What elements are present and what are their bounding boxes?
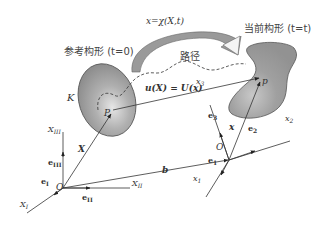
basis-e3-label: e3 [208, 110, 217, 121]
displacement-label: u(X) = U(x) [145, 83, 203, 93]
vector-b-label: b [162, 165, 168, 175]
diagram-canvas: x=χ(X,t) 当前构形 (t=t) 参考构形 (t=0) 路径 u(X) =… [0, 0, 326, 229]
vector-x-label: x [228, 122, 235, 132]
vector-X [63, 114, 111, 188]
vector-b [63, 160, 228, 188]
basis-e2-label: e2 [248, 123, 257, 134]
basis-eIII-label: eIII [48, 157, 62, 168]
axis-XI-label: XI [19, 200, 29, 210]
axis-x3-label: x3 [196, 77, 205, 87]
origin-cur-label: O [216, 142, 224, 152]
path-label: 路径 [180, 50, 200, 62]
axis-XII-label: XII [131, 179, 143, 189]
axis-x1-label: x1 [193, 174, 201, 184]
configuration-diagram: x=χ(X,t) 当前构形 (t=t) 参考构形 (t=0) 路径 u(X) =… [0, 0, 326, 229]
axis-XIII-label: XIII [47, 125, 61, 135]
body-symbol: K [66, 92, 75, 103]
vector-X-label: X [77, 144, 86, 154]
current-config-label: 当前构形 (t=t) [244, 22, 311, 34]
point-p-label: p [262, 76, 268, 86]
basis-e1-label: e1 [208, 155, 217, 166]
origin-ref-label: O [56, 182, 64, 192]
axis-x2-label: x2 [285, 114, 294, 124]
mapping-label: x=χ(X,t) [146, 16, 184, 26]
reference-config-label: 参考构形 (t=0) [64, 45, 134, 57]
point-P-label: P [103, 108, 111, 118]
basis-eII-label: eII [82, 192, 93, 203]
basis-eI-label: eI [41, 176, 49, 187]
